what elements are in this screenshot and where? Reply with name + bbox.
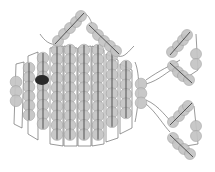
bead-column (135, 78, 147, 108)
bead-column (10, 76, 22, 106)
bead-column (120, 60, 132, 119)
bead-column (64, 44, 76, 140)
bead-column (92, 44, 104, 140)
bead-column (106, 50, 118, 127)
dorsal-fin-left-arm (53, 11, 87, 47)
tail-fin-lower (168, 101, 202, 160)
bead-column (23, 62, 35, 121)
fish-illustration (0, 0, 215, 172)
bead-column (78, 44, 90, 140)
bead-column (51, 44, 63, 140)
fish-eye (35, 75, 49, 85)
fish-beading-diagram: Beaded fish pattern (0, 0, 215, 172)
bead-column (37, 52, 49, 129)
body-beads (10, 44, 147, 140)
